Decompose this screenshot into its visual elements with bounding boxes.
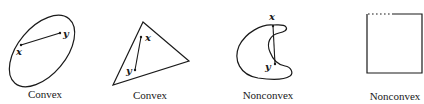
point-x-label: x xyxy=(268,11,276,22)
caption-crescent: Nonconvex xyxy=(243,89,294,101)
panel-triangle: x y Convex xyxy=(113,22,189,101)
caption-ellipse: Convex xyxy=(28,88,63,100)
point-x-label: x xyxy=(15,46,23,57)
point-y-label: y xyxy=(62,28,70,39)
point-y xyxy=(59,32,61,34)
panel-crescent: x y Nonconvex xyxy=(237,11,294,101)
convexity-figure: x y Convex x y Convex x y Nonconvex Nonc… xyxy=(0,0,424,104)
ellipse-shape xyxy=(0,3,87,98)
point-x xyxy=(140,36,142,38)
square-solid-boundary xyxy=(367,14,422,73)
triangle-shape xyxy=(113,22,189,85)
point-y xyxy=(134,69,136,71)
panel-square: Nonconvex xyxy=(367,14,422,102)
panel-ellipse: x y Convex xyxy=(0,3,87,100)
point-x xyxy=(272,25,274,27)
segment-xy xyxy=(21,33,60,45)
caption-square: Nonconvex xyxy=(370,90,421,102)
segment-xy xyxy=(135,37,141,70)
point-y-label: y xyxy=(125,65,133,76)
point-y-label: y xyxy=(264,61,272,72)
point-x-label: x xyxy=(144,32,152,43)
point-y xyxy=(274,63,276,65)
caption-triangle: Convex xyxy=(133,89,168,101)
